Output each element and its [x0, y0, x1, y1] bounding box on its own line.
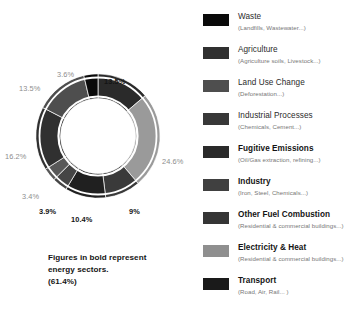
- legend-color-swatch: [203, 47, 229, 59]
- percentage-label: 13.5%: [104, 78, 125, 85]
- legend-color-swatch: [203, 14, 229, 26]
- legend-text-block: Transport(Road, Air, Rail... ): [238, 275, 345, 297]
- legend-item-subtitle: (Oil/Gas extraction, refining...): [238, 155, 345, 165]
- legend-item-subtitle: (Landfills, Wastewater...): [238, 23, 345, 33]
- legend-item-subtitle: (Residential & commercial buildings...): [238, 254, 345, 264]
- legend-color-swatch: [203, 146, 229, 158]
- legend-color-swatch: [203, 179, 229, 191]
- legend-item-title: Electricity & Heat: [238, 242, 345, 253]
- caption-line-1: Figures in bold represent: [48, 252, 198, 264]
- legend-item[interactable]: Land Use Change(Deforestation...): [200, 79, 345, 112]
- chart-legend: Waste(Landfills, Wastewater...)Agricultu…: [200, 13, 345, 310]
- legend-text-block: Industry(Iron, Steel, Chemicals...): [238, 176, 345, 198]
- legend-item[interactable]: Other Fuel Combustion(Residential & comm…: [200, 211, 345, 244]
- chart-page: 3.6%13.5%13.5%24.6%16.2%3.4%3.9%10.4%9% …: [0, 0, 345, 316]
- chart-caption: Figures in bold represent energy sectors…: [48, 252, 198, 289]
- legend-text-block: Other Fuel Combustion(Residential & comm…: [238, 209, 345, 231]
- legend-item-subtitle: (Agriculture soils, Livestock...): [238, 56, 345, 66]
- legend-text-block: Waste(Landfills, Wastewater...): [238, 11, 345, 33]
- percentage-label: 3.6%: [57, 71, 74, 78]
- legend-text-block: Industrial Processes(Chemicals, Cement..…: [238, 110, 345, 132]
- percentage-label: 3.4%: [22, 193, 39, 200]
- caption-line-2: energy sectors.: [48, 264, 198, 276]
- legend-item-title: Industrial Processes: [238, 110, 345, 121]
- legend-item-title: Waste: [238, 11, 345, 22]
- legend-item[interactable]: Industry(Iron, Steel, Chemicals...): [200, 178, 345, 211]
- chart-panel: 3.6%13.5%13.5%24.6%16.2%3.4%3.9%10.4%9% …: [0, 0, 196, 316]
- legend-item-subtitle: (Iron, Steel, Chemicals...): [238, 188, 345, 198]
- legend-color-swatch: [203, 278, 229, 290]
- donut-svg: [34, 72, 162, 200]
- legend-item[interactable]: Waste(Landfills, Wastewater...): [200, 13, 345, 46]
- legend-item[interactable]: Transport(Road, Air, Rail... ): [200, 277, 345, 310]
- legend-color-swatch: [203, 113, 229, 125]
- legend-item[interactable]: Fugitive Emissions(Oil/Gas extraction, r…: [200, 145, 345, 178]
- percentage-label: 3.9%: [39, 208, 56, 215]
- legend-color-swatch: [203, 245, 229, 257]
- percentage-label: 16.2%: [5, 153, 26, 160]
- legend-item[interactable]: Electricity & Heat(Residential & commerc…: [200, 244, 345, 277]
- legend-item-title: Fugitive Emissions: [238, 143, 345, 154]
- legend-text-block: Electricity & Heat(Residential & commerc…: [238, 242, 345, 264]
- legend-item-title: Industry: [238, 176, 345, 187]
- legend-text-block: Agriculture(Agriculture soils, Livestock…: [238, 44, 345, 66]
- legend-item-subtitle: (Road, Air, Rail... ): [238, 287, 345, 297]
- percentage-label: 13.5%: [19, 85, 40, 92]
- legend-text-block: Land Use Change(Deforestation...): [238, 77, 345, 99]
- caption-line-3: (61.4%): [48, 276, 198, 288]
- legend-item-title: Land Use Change: [238, 77, 345, 88]
- legend-item[interactable]: Industrial Processes(Chemicals, Cement..…: [200, 112, 345, 145]
- legend-item-title: Agriculture: [238, 44, 345, 55]
- donut-hole: [63, 101, 134, 172]
- legend-item-subtitle: (Chemicals, Cement...): [238, 122, 345, 132]
- percentage-label: 10.4%: [71, 216, 92, 223]
- legend-item[interactable]: Agriculture(Agriculture soils, Livestock…: [200, 46, 345, 79]
- legend-text-block: Fugitive Emissions(Oil/Gas extraction, r…: [238, 143, 345, 165]
- percentage-label: 24.6%: [162, 158, 183, 165]
- legend-color-swatch: [203, 80, 229, 92]
- legend-item-subtitle: (Residential & commercial buildings...): [238, 221, 345, 231]
- percentage-label: 9%: [129, 208, 140, 215]
- donut-chart: [34, 72, 162, 200]
- legend-item-subtitle: (Deforestation...): [238, 89, 345, 99]
- legend-item-title: Other Fuel Combustion: [238, 209, 345, 220]
- legend-color-swatch: [203, 212, 229, 224]
- legend-item-title: Transport: [238, 275, 345, 286]
